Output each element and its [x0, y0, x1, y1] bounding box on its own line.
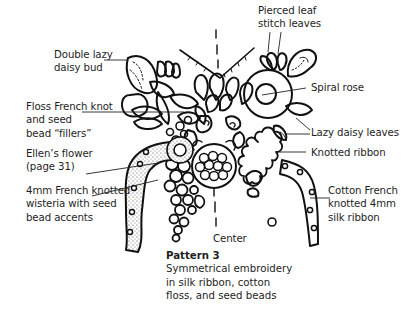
label-line: Spiral rose — [311, 81, 364, 94]
label-line: bead “fillers” — [26, 127, 113, 140]
pattern-title: Pattern 3 — [166, 249, 292, 262]
label-line: Double lazy — [54, 48, 113, 61]
label-line: daisy bud — [54, 61, 113, 74]
label-pierced-leaf: Pierced leaf stitch leaves — [258, 4, 321, 31]
label-floss-french-knot: Floss French knot and seed bead “fillers… — [26, 100, 113, 140]
label-line: silk ribbon — [328, 211, 398, 224]
label-ellens-flower: Ellen’s flower (page 31) — [26, 147, 93, 174]
label-line: bead accents — [26, 211, 130, 224]
label-line: Cotton French — [328, 184, 398, 197]
label-cotton-french: Cotton French knotted 4mm silk ribbon — [328, 184, 398, 224]
label-line: Ellen’s flower — [26, 147, 93, 160]
label-line: stitch leaves — [258, 17, 321, 30]
figure-caption: Pattern 3 Symmetrical embroidery in silk… — [166, 249, 292, 302]
label-line: Knotted ribbon — [311, 146, 386, 159]
label-wisteria: 4mm French knotted wisteria with seed be… — [26, 184, 130, 224]
label-knotted-ribbon: Knotted ribbon — [311, 146, 386, 159]
knotted-ribbon — [238, 128, 282, 184]
ellens-flower — [192, 141, 236, 188]
embroidery-pattern-figure: Double lazy daisy bud Floss French knot … — [0, 0, 410, 309]
caption-line: Symmetrical embroidery — [166, 262, 292, 275]
label-line: wisteria with seed — [26, 197, 130, 210]
lazy-daisy-leaf — [286, 103, 312, 115]
pierced-leaf-stitch-leaves — [260, 53, 286, 70]
label-line: 4mm French knotted — [26, 184, 130, 197]
caption-line: floss, and seed beads — [166, 289, 292, 302]
label-line: Lazy daisy leaves — [311, 126, 399, 139]
center-label: Center — [213, 232, 247, 245]
caption-line: in silk ribbon, cotton — [166, 276, 292, 289]
label-line: (page 31) — [26, 160, 93, 173]
label-line: knotted 4mm — [328, 197, 398, 210]
label-line: Floss French knot — [26, 100, 113, 113]
label-spiral-rose: Spiral rose — [311, 81, 364, 94]
label-line: and seed — [26, 113, 113, 126]
label-double-lazy-daisy-bud: Double lazy daisy bud — [54, 48, 113, 75]
label-line: Pierced leaf — [258, 4, 321, 17]
cotton-french-ribbon-right — [280, 160, 318, 246]
label-lazy-daisy-leaves: Lazy daisy leaves — [311, 126, 399, 139]
stippled-silk-ribbon-left — [126, 142, 172, 252]
